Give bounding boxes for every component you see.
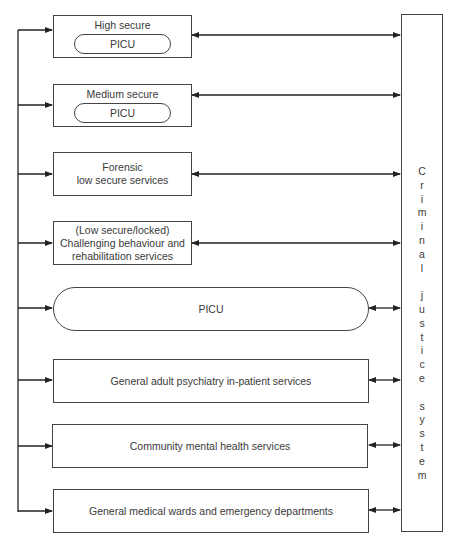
cjs-letter: y <box>419 413 424 427</box>
picu-box: PICU <box>53 287 369 331</box>
cjs-letter: i <box>421 344 423 358</box>
high-secure-label: High secure <box>94 19 150 32</box>
general-adult-psychiatry-label: General adult psychiatry in-patient serv… <box>111 375 312 388</box>
medium-secure-label: Medium secure <box>87 88 159 101</box>
cjs-letter: n <box>419 234 425 248</box>
cjs-letter: t <box>421 441 424 455</box>
cjs-letter: m <box>418 206 427 220</box>
cjs-letter: s <box>419 400 424 414</box>
forensic-label-line2: low secure services <box>77 174 169 187</box>
cjs-letter: c <box>419 358 424 372</box>
community-mental-health-label: Community mental health services <box>130 440 290 453</box>
picu-label: PICU <box>198 303 223 316</box>
high-secure-picu-label: PICU <box>110 38 135 51</box>
cjs-letter: s <box>419 427 424 441</box>
general-medical-wards-box: General medical wards and emergency depa… <box>53 489 369 533</box>
cjs-letter: s <box>419 317 424 331</box>
medium-secure-picu: PICU <box>74 103 171 123</box>
high-secure-box: High secure PICU <box>53 15 192 58</box>
criminal-justice-system-box: Criminal justice system <box>401 14 443 532</box>
medium-secure-box: Medium secure PICU <box>53 84 192 127</box>
low-secure-label-line2: Challenging behaviour and <box>60 237 185 250</box>
cjs-letter: r <box>420 179 424 193</box>
cjs-letter <box>421 386 424 400</box>
criminal-justice-system-label: Criminal justice system <box>402 165 442 482</box>
forensic-low-secure-box: Forensic low secure services <box>53 152 192 196</box>
high-secure-picu: PICU <box>74 34 171 54</box>
cjs-letter: e <box>419 455 425 469</box>
general-adult-psychiatry-box: General adult psychiatry in-patient serv… <box>53 359 369 403</box>
community-mental-health-box: Community mental health services <box>52 424 368 468</box>
cjs-letter: m <box>418 469 427 483</box>
medium-secure-picu-label: PICU <box>110 107 135 120</box>
cjs-letter: t <box>421 331 424 345</box>
cjs-letter <box>421 275 424 289</box>
cjs-letter: C <box>418 165 426 179</box>
cjs-letter: i <box>421 220 423 234</box>
forensic-label-line1: Forensic <box>102 161 142 174</box>
low-secure-locked-box: (Low secure/locked) Challenging behaviou… <box>53 221 192 265</box>
low-secure-label-line1: (Low secure/locked) <box>76 224 170 237</box>
cjs-letter: i <box>421 193 423 207</box>
low-secure-label-line3: rehabilitation services <box>72 250 173 263</box>
general-medical-wards-label: General medical wards and emergency depa… <box>89 505 333 518</box>
cjs-letter: j <box>421 289 423 303</box>
cjs-letter: u <box>419 303 425 317</box>
cjs-letter: a <box>419 248 425 262</box>
cjs-letter: e <box>419 372 425 386</box>
cjs-letter: l <box>421 262 423 276</box>
